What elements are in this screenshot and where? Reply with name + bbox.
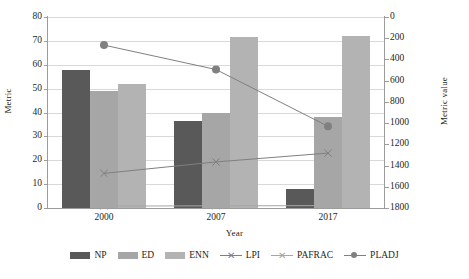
legend-label: ED [142, 250, 155, 260]
legend-line-marker-icon [344, 251, 366, 260]
plot-area [48, 17, 384, 208]
y-axis-left-tick-label: 10 [0, 179, 42, 189]
gridline [48, 65, 384, 66]
legend-swatch-icon [118, 252, 138, 259]
bar-ed-2007 [202, 113, 230, 209]
gridline [48, 89, 384, 90]
legend-label: NP [94, 250, 106, 260]
legend-swatch-icon [70, 252, 90, 259]
x-axis-tick-label: 2007 [186, 212, 246, 222]
chart-container: Metric Metric value Year 807060504030201… [0, 0, 469, 279]
y-axis-right-tickmark [385, 166, 389, 167]
x-axis-tick-label: 2017 [298, 212, 358, 222]
y-axis-right-tick-label: 200 [390, 33, 450, 43]
y-axis-left-tick-label: 80 [0, 12, 42, 22]
y-axis-right-tickmark [385, 38, 389, 39]
legend-swatch-icon [165, 252, 185, 259]
bar-ed-2000 [90, 91, 118, 208]
y-axis-left-tick-label: 50 [0, 84, 42, 94]
legend-item-enn[interactable]: ENN [165, 250, 209, 260]
y-axis-right-tickmark [385, 208, 389, 209]
y-axis-left-tick-label: 30 [0, 131, 42, 141]
y-axis-right-tick-label: 0 [390, 12, 450, 22]
chart-legend: NPEDENN✕LPI✕PAFRACPLADJ [0, 250, 469, 260]
legend-item-np[interactable]: NP [70, 250, 106, 260]
x-axis-tick-label: 2000 [74, 212, 134, 222]
bar-np-2000 [62, 70, 90, 208]
legend-label: PAFRAC [297, 250, 333, 260]
y-axis-right-tickmark [385, 17, 389, 18]
legend-label: ENN [189, 250, 209, 260]
y-axis-right-tick-label: 1200 [390, 139, 450, 149]
bar-np-2017 [286, 189, 314, 208]
y-axis-right-tick-label: 800 [390, 97, 450, 107]
legend-item-pladj[interactable]: PLADJ [344, 250, 399, 260]
y-axis-right-tick-label: 1400 [390, 161, 450, 171]
y-axis-right-tick-label: 1600 [390, 182, 450, 192]
y-axis-right-tickmark [385, 102, 389, 103]
y-axis-left-tick-label: 20 [0, 155, 42, 165]
y-axis-left-tick-label: 60 [0, 60, 42, 70]
legend-item-lpi[interactable]: ✕LPI [220, 250, 260, 260]
y-axis-left-tick-label: 40 [0, 108, 42, 118]
y-axis-left-title: Metric [3, 61, 13, 141]
y-axis-right-tickmark [385, 123, 389, 124]
y-axis-left-tick-label: 0 [0, 203, 42, 213]
y-axis-right-tick-label: 400 [390, 54, 450, 64]
bar-np-2007 [174, 121, 202, 208]
gridline [48, 17, 384, 18]
y-axis-left-tick-label: 70 [0, 36, 42, 46]
y-axis-right-tickmark [385, 144, 389, 145]
y-axis-right-tick-label: 1000 [390, 118, 450, 128]
bar-enn-2007 [230, 37, 258, 208]
y-axis-right-tick-label: 1800 [390, 203, 450, 213]
gridline [48, 208, 384, 209]
y-axis-right-tick-label: 600 [390, 76, 450, 86]
legend-label: LPI [246, 250, 260, 260]
legend-line-marker-icon: ✕ [271, 251, 293, 260]
y-axis-right-tickmark [385, 187, 389, 188]
legend-item-ed[interactable]: ED [118, 250, 155, 260]
bar-enn-2000 [118, 84, 146, 208]
bar-ed-2017 [314, 117, 342, 208]
bar-enn-2017 [342, 36, 370, 208]
x-axis-title: Year [0, 228, 469, 238]
legend-line-marker-icon: ✕ [220, 251, 242, 260]
legend-item-pafrac[interactable]: ✕PAFRAC [271, 250, 333, 260]
y-axis-right-line [384, 16, 385, 209]
y-axis-right-tickmark [385, 81, 389, 82]
legend-label: PLADJ [370, 250, 399, 260]
y-axis-right-tickmark [385, 59, 389, 60]
gridline [48, 41, 384, 42]
